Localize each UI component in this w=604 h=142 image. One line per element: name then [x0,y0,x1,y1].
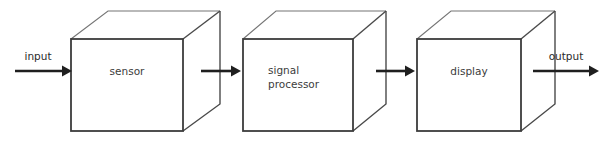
block-sensor[interactable]: sensor [71,11,220,131]
block-label-sensor: sensor [110,65,145,77]
block-signal-processor[interactable]: signal processor [243,11,386,131]
diagram-canvas: sensor signal processor display [0,0,604,142]
sensor-cube-front-face [71,39,183,131]
block-diagram: sensor signal processor display [0,0,604,142]
display-cube-front-face [417,39,521,131]
flow-label-input: input [24,50,51,62]
flow-label-output: output [549,50,584,62]
block-label-signal-processor-line2: processor [268,78,320,90]
flow-output-arrowhead [589,66,599,77]
flow-processor-to-display-arrowhead [405,66,415,77]
block-label-display: display [450,65,487,77]
flow-sensor-to-processor-arrowhead [231,66,241,77]
block-label-signal-processor-line1: signal [268,64,299,76]
flow-input: input [15,50,72,77]
